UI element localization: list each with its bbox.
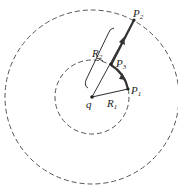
label-p3: P3	[115, 57, 127, 71]
label-r1: R1	[106, 97, 117, 111]
label-p2: P2	[132, 7, 144, 21]
label-q: q	[86, 98, 92, 110]
label-p1: P1	[130, 84, 141, 98]
point-p3	[109, 62, 112, 65]
field-diagram: P2 P3 P1 R2 R1 q	[0, 0, 178, 189]
r1-radius-line	[92, 89, 128, 97]
point-p1	[126, 87, 129, 90]
